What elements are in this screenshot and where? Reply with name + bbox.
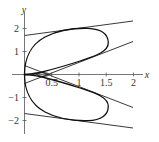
- x-tick-label: 1.5: [100, 77, 113, 88]
- x-tick-label: 2: [131, 77, 136, 88]
- y-tick-label: −1: [8, 92, 19, 103]
- y-axis-label: y: [21, 4, 27, 15]
- y-tick-label: 1: [14, 46, 19, 57]
- y-tick-label: 2: [14, 23, 19, 34]
- x-axis-label: x: [144, 69, 150, 80]
- y-tick-label: −2: [8, 115, 19, 126]
- plot: 0.5 1 1.5 2 2 1 −1 −2 y x: [0, 0, 159, 142]
